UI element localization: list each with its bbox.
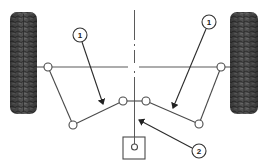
left-inner-joint-icon	[119, 97, 127, 105]
callout-1-right: 1	[202, 15, 216, 29]
reference-box	[123, 137, 145, 159]
arrow-1-right	[173, 29, 206, 108]
right-outer-joint-icon	[217, 63, 225, 71]
left-lower-joint-icon	[69, 121, 77, 129]
left-linkage	[48, 67, 146, 125]
right-inner-joint-icon	[142, 97, 150, 105]
callout-label: 2	[197, 147, 202, 156]
left-tire-icon	[10, 12, 37, 114]
pivot-point-icon	[132, 144, 138, 150]
callout-2: 2	[192, 144, 206, 158]
right-linkage	[146, 67, 221, 124]
callout-1-left: 1	[73, 28, 87, 42]
arrow-1-left	[82, 42, 103, 104]
suspension-diagram: 1 1 2	[0, 0, 267, 163]
right-tire-icon	[230, 12, 258, 114]
callout-arrows	[82, 29, 206, 148]
callout-label: 1	[78, 31, 83, 40]
right-lower-joint-icon	[195, 120, 203, 128]
arrow-2	[139, 120, 192, 148]
callout-label: 1	[207, 18, 212, 27]
left-outer-joint-icon	[44, 63, 52, 71]
